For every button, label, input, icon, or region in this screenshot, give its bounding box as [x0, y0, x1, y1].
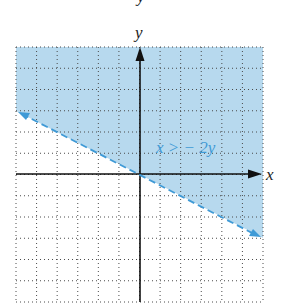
y-axis-label: y [133, 23, 143, 42]
x-axis-label: x [265, 165, 274, 184]
inequality-graph: y y x x > − 2y [0, 0, 290, 306]
clipped-caption: y [135, 0, 145, 6]
boundary-arrow-left-icon [18, 112, 30, 120]
inequality-label: x > − 2y [155, 138, 216, 157]
